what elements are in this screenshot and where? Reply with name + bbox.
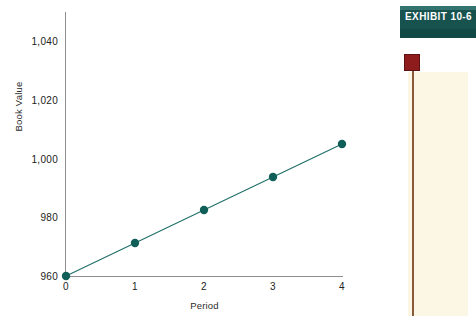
page-margin-strip: EXHIBIT 10-6: [392, 0, 476, 316]
banner-bottom-band: [400, 29, 476, 38]
x-tick-label: 1: [120, 281, 150, 292]
x-tick-label: 0: [51, 281, 81, 292]
cream-side-panel: [408, 72, 468, 316]
data-point: [338, 140, 346, 148]
data-point: [131, 239, 139, 247]
series-points: [62, 140, 346, 280]
exhibit-label: EXHIBIT 10-6: [405, 11, 472, 22]
exhibit-page: Book Value 960 980 1,000 1,020 1,040 0 1…: [0, 0, 476, 316]
flag-pole: [412, 54, 414, 316]
book-value-line-chart: Book Value 960 980 1,000 1,020 1,040 0 1…: [0, 0, 390, 316]
data-series-layer: [0, 0, 390, 316]
data-point: [200, 206, 208, 214]
x-axis-title: Period: [62, 300, 347, 311]
x-tick-label: 3: [258, 281, 288, 292]
x-tick-label: 4: [327, 281, 357, 292]
data-point: [62, 272, 70, 280]
exhibit-banner: EXHIBIT 10-6: [400, 6, 476, 38]
x-tick-label: 2: [189, 281, 219, 292]
data-point: [269, 173, 277, 181]
banner-top-band: [400, 6, 476, 10]
red-flag-icon: [404, 54, 420, 71]
